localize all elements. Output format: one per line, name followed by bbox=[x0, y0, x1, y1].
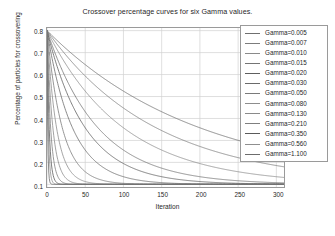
legend-item[interactable]: Gamma=0.007 bbox=[241, 38, 327, 48]
x-axis-tick-label: 200 bbox=[196, 191, 207, 198]
legend-line-swatch bbox=[245, 123, 260, 124]
x-axis-tick-label: 100 bbox=[119, 191, 130, 198]
y-axis-tick-label: 0.7 bbox=[34, 49, 43, 56]
legend-item-label: Gamma=0.560 bbox=[265, 141, 307, 147]
y-axis-tick-label: 0.6 bbox=[34, 72, 43, 79]
chart-legend: Gamma=0.005Gamma=0.007Gamma=0.010Gamma=0… bbox=[240, 25, 328, 162]
legend-line-swatch bbox=[245, 113, 260, 114]
legend-item-label: Gamma=0.130 bbox=[265, 111, 307, 117]
x-axis-tick-label: 250 bbox=[234, 191, 245, 198]
x-axis-tick-label: 50 bbox=[82, 191, 89, 198]
legend-item[interactable]: Gamma=0.010 bbox=[241, 48, 327, 58]
legend-item[interactable]: Gamma=0.560 bbox=[241, 139, 327, 149]
legend-item-label: Gamma=0.350 bbox=[265, 131, 307, 137]
y-axis-tick-label: 0.4 bbox=[34, 116, 43, 123]
legend-line-swatch bbox=[245, 73, 260, 74]
legend-item-label: Gamma=0.210 bbox=[265, 121, 307, 127]
legend-item-label: Gamma=0.030 bbox=[265, 80, 307, 86]
y-axis-label: Percentage of particles for crossovering bbox=[14, 0, 21, 149]
legend-item[interactable]: Gamma=0.350 bbox=[241, 129, 327, 139]
legend-line-swatch bbox=[245, 53, 260, 54]
legend-item[interactable]: Gamma=0.080 bbox=[241, 99, 327, 109]
x-axis-tick-label: 0 bbox=[45, 191, 49, 198]
legend-item-label: Gamma=0.020 bbox=[265, 70, 307, 76]
legend-item[interactable]: Gamma=0.050 bbox=[241, 89, 327, 99]
legend-line-swatch bbox=[245, 33, 260, 34]
chart-title: Crossover percentage curves for six Gamm… bbox=[0, 7, 335, 16]
legend-item-label: Gamma=0.015 bbox=[265, 60, 307, 66]
legend-item[interactable]: Gamma=0.015 bbox=[241, 58, 327, 68]
y-axis-tick-label: 0.3 bbox=[34, 138, 43, 145]
legend-line-swatch bbox=[245, 63, 260, 64]
legend-item-label: Gamma=0.007 bbox=[265, 40, 307, 46]
x-axis-tick-label: 300 bbox=[273, 191, 284, 198]
chart-figure: Crossover percentage curves for six Gamm… bbox=[0, 0, 335, 236]
legend-item[interactable]: Gamma=0.130 bbox=[241, 109, 327, 119]
legend-item-label: Gamma=0.010 bbox=[265, 50, 307, 56]
legend-item[interactable]: Gamma=0.005 bbox=[241, 28, 327, 38]
y-axis-tick-label: 0.1 bbox=[34, 183, 43, 190]
legend-line-swatch bbox=[245, 93, 260, 94]
y-axis-tick-label: 0.8 bbox=[34, 27, 43, 34]
legend-line-swatch bbox=[245, 103, 260, 104]
x-axis-tick-label: 150 bbox=[157, 191, 168, 198]
x-axis-label: Iteration bbox=[0, 203, 335, 210]
legend-item-label: Gamma=0.005 bbox=[265, 30, 307, 36]
legend-item[interactable]: Gamma=1.100 bbox=[241, 149, 327, 159]
legend-line-swatch bbox=[245, 144, 260, 145]
legend-item-label: Gamma=0.050 bbox=[265, 90, 307, 96]
legend-line-swatch bbox=[245, 83, 260, 84]
legend-line-swatch bbox=[245, 154, 260, 155]
legend-item-label: Gamma=1.100 bbox=[265, 151, 307, 157]
legend-line-swatch bbox=[245, 43, 260, 44]
legend-item[interactable]: Gamma=0.210 bbox=[241, 119, 327, 129]
legend-item-label: Gamma=0.080 bbox=[265, 101, 307, 107]
legend-line-swatch bbox=[245, 133, 260, 134]
y-axis-tick-label: 0.5 bbox=[34, 94, 43, 101]
y-axis-tick-label: 0.2 bbox=[34, 161, 43, 168]
legend-item[interactable]: Gamma=0.020 bbox=[241, 68, 327, 78]
legend-item[interactable]: Gamma=0.030 bbox=[241, 78, 327, 88]
